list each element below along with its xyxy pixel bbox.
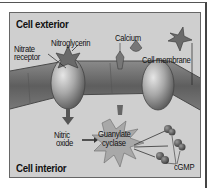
guanylate-cyclase-label-line2: cyclase [102, 139, 126, 148]
cell-exterior-label: Cell exterior [16, 19, 69, 30]
cell-interior-label: Cell interior [16, 163, 66, 174]
membrane-diagram [10, 13, 201, 178]
nitrate-receptor-protein [51, 46, 85, 125]
cell-membrane-label: Cell membrane [142, 56, 191, 65]
nitroglycerin-label: Nitroglycerin [51, 39, 90, 48]
nitroglycerin-free-molecule [168, 27, 192, 51]
nitric-oxide-label-line2: oxide [56, 139, 73, 148]
nitrate-receptor-label-line2: receptor [14, 53, 40, 62]
diagram-panel: Cell exterior Nitrate receptor Nitroglyc… [9, 12, 201, 178]
cgmp-molecules [156, 125, 186, 164]
calcium-label: Calcium [115, 34, 141, 43]
membrane-protein-right [142, 60, 174, 110]
cgmp-label: cGMP [174, 163, 194, 172]
